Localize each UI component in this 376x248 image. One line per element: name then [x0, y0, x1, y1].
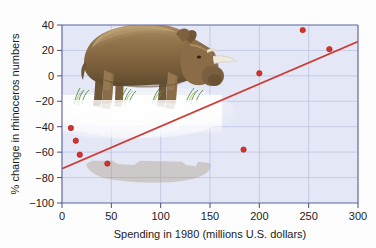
chart-figure: 40 20 0 −20 −40 −60 −80 −100 0 50 100 15…	[0, 0, 376, 248]
y-tick-label: 40	[42, 19, 54, 31]
data-point	[327, 46, 332, 51]
y-tick-marks	[57, 25, 62, 203]
x-tick-label: 0	[59, 210, 65, 222]
y-tick-labels: 40 20 0 −20 −40 −60 −80 −100	[29, 19, 54, 209]
data-point	[68, 125, 73, 130]
data-point	[77, 152, 82, 157]
data-point	[105, 161, 110, 166]
y-tick-label: −20	[35, 95, 54, 107]
x-tick-label: 100	[151, 210, 169, 222]
y-tick-label: 20	[42, 44, 54, 56]
data-point	[257, 71, 262, 76]
data-point	[73, 138, 78, 143]
y-tick-label: 0	[48, 70, 54, 82]
x-tick-labels: 0 50 100 150 200 250 300	[59, 210, 367, 222]
scatter-plot: 40 20 0 −20 −40 −60 −80 −100 0 50 100 15…	[0, 0, 376, 248]
x-tick-label: 150	[201, 210, 219, 222]
x-tick-marks	[62, 203, 358, 208]
x-tick-label: 300	[349, 210, 367, 222]
x-tick-label: 50	[105, 210, 117, 222]
x-axis-title: Spending in 1980 (millions U.S. dollars)	[114, 228, 307, 240]
x-tick-label: 250	[299, 210, 317, 222]
y-tick-label: −100	[29, 197, 54, 209]
y-tick-label: −40	[35, 121, 54, 133]
y-axis-title: % change in rhinoceros numbers	[9, 33, 21, 194]
y-tick-label: −80	[35, 172, 54, 184]
data-point	[241, 147, 246, 152]
data-point	[300, 27, 305, 32]
x-tick-label: 200	[250, 210, 268, 222]
y-tick-label: −60	[35, 146, 54, 158]
